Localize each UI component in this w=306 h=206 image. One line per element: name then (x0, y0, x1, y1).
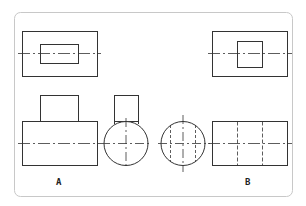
figure-b-front-view (208, 122, 292, 166)
figure-a-front-view (18, 96, 101, 166)
figure-b-side-view (158, 115, 210, 172)
figure-a-top-view (18, 32, 101, 77)
label-a: A (56, 177, 62, 187)
figure-a-side-view (101, 96, 152, 170)
drawing-frame (15, 13, 293, 197)
drawing-canvas: A B (0, 0, 306, 206)
label-b: B (245, 177, 251, 187)
figure-b-top-view (208, 32, 292, 77)
